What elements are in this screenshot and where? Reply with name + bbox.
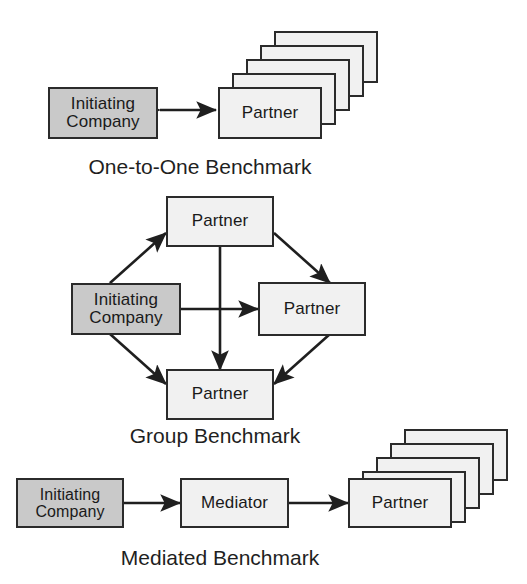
node-label: Mediator xyxy=(199,494,270,512)
node-label: Partner xyxy=(282,300,342,318)
node-partner-right[interactable]: Partner xyxy=(258,282,366,336)
node-partner-mediated[interactable]: Partner xyxy=(348,478,452,528)
caption-mediated: Mediated Benchmark xyxy=(0,546,440,570)
node-partner-top[interactable]: Partner xyxy=(166,196,274,247)
node-initiating-company-mediated[interactable]: Initiating Company xyxy=(16,478,124,528)
benchmark-diagram: Partner Initiating Company One-to-One Be… xyxy=(0,0,527,584)
node-mediator[interactable]: Mediator xyxy=(180,478,289,528)
connector-initiator-partner-bottom xyxy=(110,334,166,384)
node-label: Partner xyxy=(190,212,250,230)
node-label: Partner xyxy=(240,104,300,122)
node-partner-bottom[interactable]: Partner xyxy=(166,369,274,420)
connector-initiator-partner-top xyxy=(110,233,166,283)
node-initiating-company-group[interactable]: Initiating Company xyxy=(71,283,181,335)
node-label: Initiating Company xyxy=(64,95,141,132)
node-partner-one-to-one[interactable]: Partner xyxy=(218,87,322,139)
node-label: Initiating Company xyxy=(87,291,164,328)
caption-one-to-one: One-to-One Benchmark xyxy=(0,155,400,179)
connector-partner-top-partner-right xyxy=(274,233,330,283)
node-label: Initiating Company xyxy=(33,486,106,521)
node-label: Partner xyxy=(190,385,250,403)
connector-partner-right-partner-bottom xyxy=(274,334,330,384)
node-label: Partner xyxy=(370,494,430,512)
caption-group: Group Benchmark xyxy=(0,424,430,448)
node-initiating-company-one-to-one[interactable]: Initiating Company xyxy=(48,87,158,139)
